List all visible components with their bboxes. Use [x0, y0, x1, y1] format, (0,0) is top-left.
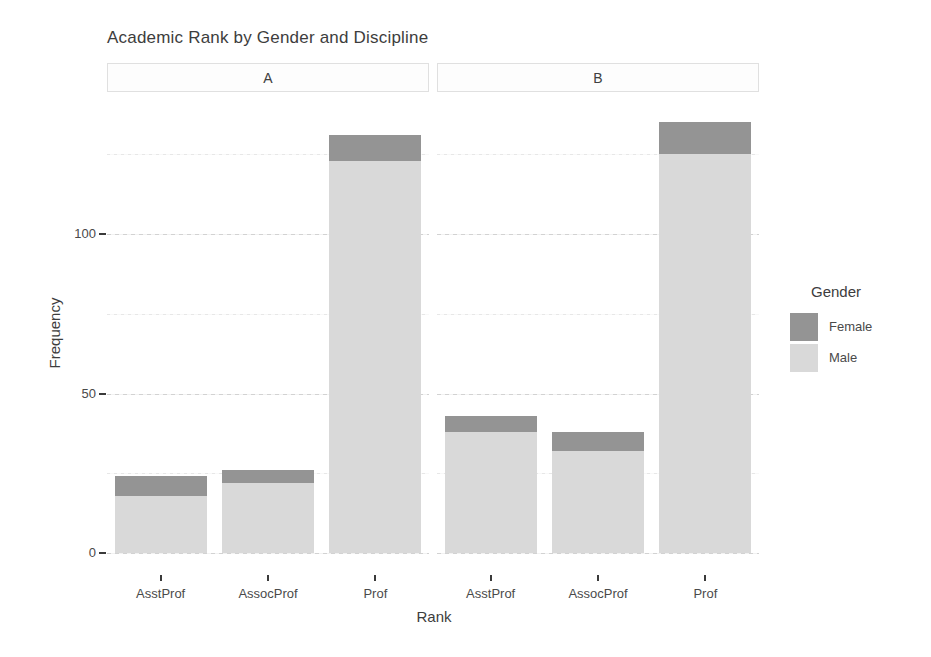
bar-segment-male: [445, 432, 537, 553]
bar-segment-female: [222, 470, 314, 483]
bar-segment-female: [329, 135, 421, 161]
bar-a-assocprof: [222, 470, 314, 553]
bar-segment-female: [445, 416, 537, 432]
bar-segment-male: [659, 154, 751, 553]
facet-strip-a-label: A: [263, 70, 272, 86]
legend-swatch-male: [790, 344, 818, 372]
y-axis-title: Frequency: [46, 298, 63, 369]
bar-a-asstprof: [115, 476, 207, 553]
x-tick-label-b-assocprof: AssocProf: [568, 586, 627, 601]
gridline-major-0: [437, 553, 759, 554]
y-tick-label-50: 50: [46, 386, 96, 401]
bar-b-assocprof: [552, 432, 644, 553]
x-tick-b-assocprof: [597, 575, 599, 581]
y-tick-label-0: 0: [46, 545, 96, 560]
legend-entry-male: Male: [790, 343, 925, 372]
x-tick-label-a-asstprof: AsstProf: [136, 586, 185, 601]
bar-segment-male: [115, 496, 207, 553]
legend-label-female: Female: [829, 319, 872, 334]
bar-b-prof: [659, 122, 751, 553]
x-tick-a-prof: [374, 575, 376, 581]
facet-strip-b-label: B: [593, 70, 602, 86]
x-tick-label-b-asstprof: AsstProf: [466, 586, 515, 601]
y-tick-label-100: 100: [46, 226, 96, 241]
x-tick-b-asstprof: [490, 575, 492, 581]
bar-segment-female: [115, 476, 207, 495]
chart-figure: Academic Rank by Gender and Discipline A…: [0, 0, 931, 657]
chart-title: Academic Rank by Gender and Discipline: [107, 28, 428, 48]
gridline-major-0: [107, 553, 429, 554]
x-axis-title: Rank: [416, 608, 451, 625]
bar-b-asstprof: [445, 416, 537, 553]
legend: Gender Female Male: [790, 283, 925, 374]
bar-segment-female: [659, 122, 751, 154]
x-tick-a-assocprof: [267, 575, 269, 581]
x-tick-label-a-assocprof: AssocProf: [238, 586, 297, 601]
x-tick-b-prof: [704, 575, 706, 581]
facet-strip-b: B: [437, 63, 759, 92]
y-tick-100: [99, 233, 106, 235]
x-tick-a-asstprof: [160, 575, 162, 581]
y-tick-0: [99, 552, 106, 554]
bar-segment-male: [329, 161, 421, 553]
x-tick-label-b-prof: Prof: [693, 586, 717, 601]
legend-title: Gender: [811, 283, 925, 300]
bar-segment-female: [552, 432, 644, 451]
facet-strip-a: A: [107, 63, 429, 92]
bar-segment-male: [222, 483, 314, 553]
bar-a-prof: [329, 135, 421, 553]
x-tick-label-a-prof: Prof: [363, 586, 387, 601]
facet-panel-a: [107, 95, 429, 575]
facet-panel-b: [437, 95, 759, 575]
legend-swatch-female: [790, 313, 818, 341]
y-tick-50: [99, 393, 106, 395]
bar-segment-male: [552, 451, 644, 553]
legend-label-male: Male: [829, 350, 857, 365]
legend-entry-female: Female: [790, 312, 925, 341]
